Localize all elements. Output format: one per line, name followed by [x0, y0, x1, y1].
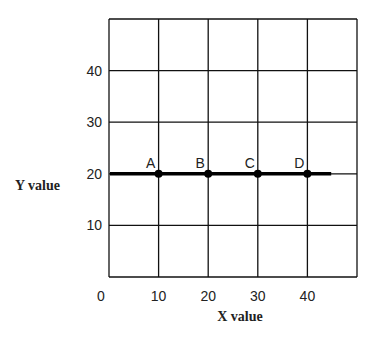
x-tick-label: 20: [200, 288, 216, 304]
x-tick-label: 40: [300, 288, 316, 304]
data-point-marker: [303, 170, 311, 178]
data-point-marker: [254, 170, 262, 178]
data-point-marker: [155, 170, 163, 178]
x-axis-label: X value: [217, 309, 263, 324]
tick-labels: 01020304010203040: [86, 63, 315, 304]
data-point-label: C: [245, 155, 255, 171]
x-tick-label: 10: [151, 288, 167, 304]
x-tick-label: 30: [250, 288, 266, 304]
y-tick-label: 20: [86, 166, 102, 182]
x-tick-label: 0: [97, 288, 105, 304]
data-point-label: B: [196, 155, 205, 171]
y-tick-label: 40: [86, 63, 102, 79]
y-tick-label: 30: [86, 114, 102, 130]
grid: [109, 19, 357, 277]
y-axis-label: Y value: [15, 178, 60, 193]
data-point-marker: [204, 170, 212, 178]
chart-svg: 01020304010203040 ABCD X value Y value: [0, 0, 382, 343]
data-point-label: A: [146, 155, 156, 171]
y-tick-label: 10: [86, 217, 102, 233]
data-point-label: D: [294, 155, 304, 171]
